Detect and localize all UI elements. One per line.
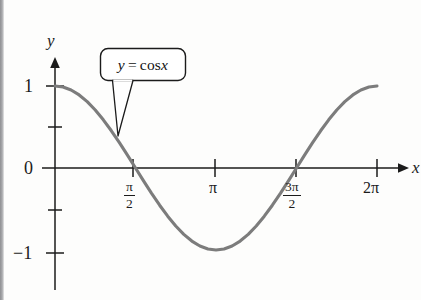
callout-pointer-tail: [113, 81, 134, 137]
callout-equals: =: [125, 56, 140, 74]
y-tick-label-neg1: −1: [13, 244, 32, 262]
equation-callout-label: y = cos x: [101, 49, 185, 80]
x-tick-label-two-pi: 2π: [363, 180, 379, 196]
x-axis-arrowhead: [398, 163, 409, 173]
y-axis-label: y: [47, 32, 55, 49]
y-tick-label-0: 0: [24, 159, 33, 177]
fraction-numerator: 3π: [283, 180, 301, 196]
y-tick-label-1: 1: [24, 77, 33, 95]
x-tick-label-pi: π: [209, 180, 217, 196]
cosine-graph-figure: y x 1 0 −1 π 2 π 3π 2 2π y = cos x: [0, 0, 421, 300]
fraction-numerator: π: [124, 180, 135, 196]
y-axis-arrowhead: [50, 57, 60, 68]
callout-function: cos: [140, 56, 161, 74]
fraction-half-pi: π 2: [124, 180, 135, 211]
fraction-denominator: 2: [283, 196, 301, 211]
fraction-three-half-pi: 3π 2: [283, 180, 301, 211]
callout-argument: x: [161, 56, 168, 74]
x-tick-label-half-pi: π 2: [124, 180, 135, 211]
plot-canvas: [0, 0, 421, 300]
callout-y-var: y: [118, 56, 125, 74]
x-axis-label: x: [412, 159, 420, 176]
x-tick-label-three-half-pi: 3π 2: [283, 180, 301, 211]
fraction-denominator: 2: [124, 196, 135, 211]
